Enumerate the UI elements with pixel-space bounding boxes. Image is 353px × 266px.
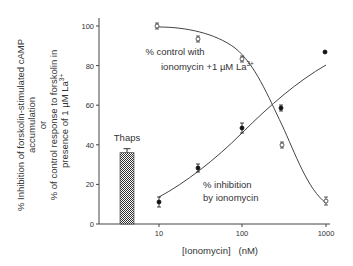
control-annotation-line2: ionomycin +1 µM La3+: [161, 60, 254, 72]
y-axis-title: % Inhibition of forskolin-stimulated cAM…: [15, 39, 70, 211]
x-axis-title: [Ionomycin] (nM): [182, 245, 258, 256]
data-point: [324, 199, 328, 203]
thaps-bar: Thaps: [114, 132, 141, 224]
control-annotation-line1: % control with: [145, 46, 204, 57]
y-tick-label: 20: [86, 180, 94, 189]
data-point: [280, 143, 284, 147]
y-tick-label: 80: [86, 62, 94, 71]
data-point: [240, 126, 244, 130]
y-tick-label: 100: [81, 22, 94, 31]
y-axis-title-line: or: [37, 121, 48, 129]
data-point: [155, 24, 159, 28]
thaps-label: Thaps: [114, 132, 141, 143]
y-axis-title-line: % of control response to forskolin in: [48, 50, 59, 201]
x-tick-label: 10: [155, 229, 163, 238]
data-point: [323, 50, 327, 54]
x-tick-label: 1000: [318, 229, 335, 238]
x-axis: 10 100 1000 [Ionomycin] (nM): [99, 224, 334, 256]
y-axis: 0 20 40 60 80 100: [81, 18, 99, 229]
data-point: [279, 106, 283, 110]
x-tick-label: 100: [236, 229, 249, 238]
inhibition-curve: [159, 65, 326, 197]
y-axis-title-line: accumulation: [26, 97, 37, 153]
y-tick-label: 0: [90, 220, 94, 229]
y-tick-label: 60: [86, 101, 94, 110]
chart-svg: 0 20 40 60 80 100 10 100 1000 [Ionomycin…: [0, 0, 353, 266]
inhibition-annotation-line2: by ionomycin: [203, 192, 258, 203]
chart-figure: 0 20 40 60 80 100 10 100 1000 [Ionomycin…: [0, 0, 353, 266]
y-axis-title-line: % Inhibition of forskolin-stimulated cAM…: [15, 39, 26, 211]
inhibition-annotation-line1: % inhibition: [203, 179, 252, 190]
y-tick-label: 40: [86, 141, 94, 150]
y-axis-title-line: presence of 1 µM La3+: [58, 74, 70, 168]
data-point: [196, 166, 200, 170]
data-point: [157, 200, 161, 204]
data-point: [196, 37, 200, 41]
